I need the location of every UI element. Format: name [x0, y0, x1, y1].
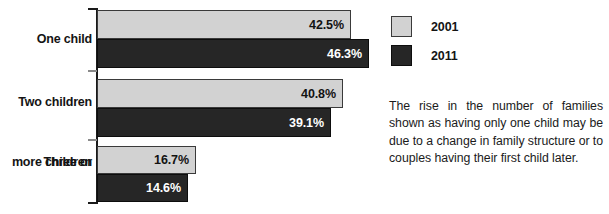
legend-item-2001: 2001: [391, 12, 458, 41]
bar-2001-three-or-more-children: 16.7%: [97, 146, 196, 174]
bar-chart-figure: One child Two children Three or more chi…: [0, 0, 609, 214]
bar-value-label: 40.8%: [301, 87, 342, 101]
legend-label: 2001: [431, 20, 458, 34]
bar-2001-two-children: 40.8%: [97, 79, 343, 108]
axis-tick-top: [88, 8, 97, 10]
commentary-text: The rise in the number of families shown…: [389, 98, 603, 168]
legend-swatch-icon: [391, 16, 412, 37]
category-label-three-or-more-children: Three or more children: [0, 155, 92, 169]
axis-tick-bottom: [88, 202, 97, 204]
bar-2011-one-child: 46.3%: [97, 39, 369, 68]
bar-2011-three-or-more-children: 14.6%: [97, 174, 188, 202]
legend-label: 2011: [431, 49, 458, 63]
axis-tick-2: [88, 139, 97, 141]
bar-2001-one-child: 42.5%: [97, 10, 351, 39]
bar-value-label: 39.1%: [289, 116, 330, 130]
chart-legend: 2001 2011: [391, 12, 458, 70]
bar-value-label: 16.7%: [154, 153, 195, 167]
bar-value-label: 42.5%: [309, 18, 350, 32]
bar-2011-two-children: 39.1%: [97, 108, 331, 137]
category-label-line: One child: [0, 32, 92, 46]
chart-plot-area: One child Two children Three or more chi…: [0, 0, 380, 214]
bar-value-label: 14.6%: [146, 181, 187, 195]
bar-value-label: 46.3%: [327, 47, 368, 61]
category-label-line: Two children: [0, 95, 92, 109]
axis-tick-1: [88, 70, 97, 72]
legend-swatch-icon: [391, 45, 412, 66]
legend-item-2011: 2011: [391, 41, 458, 70]
category-label-line: more children: [0, 155, 92, 169]
